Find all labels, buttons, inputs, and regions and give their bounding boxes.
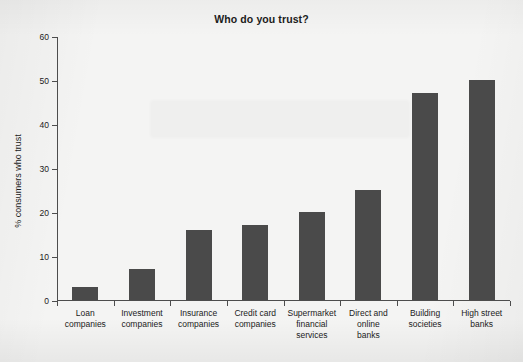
x-category-label-line: societies (394, 319, 456, 330)
bar (186, 230, 212, 300)
x-category-label-line: Investment (111, 308, 173, 319)
y-tick-mark (52, 257, 57, 258)
x-category-label-line: banks (451, 319, 513, 330)
x-category-label-line: Loan (54, 308, 116, 319)
x-tick-mark (510, 301, 511, 306)
x-category-label-line: companies (168, 319, 230, 330)
x-tick-mark (340, 301, 341, 306)
x-category-label: High streetbanks (451, 308, 513, 330)
y-axis-title: % consumers who trust (13, 134, 23, 228)
y-tick-mark (52, 213, 57, 214)
x-tick-mark (397, 301, 398, 306)
x-category-label-line: Insurance (168, 308, 230, 319)
x-category-label-line: Direct and (337, 308, 399, 319)
bar (129, 269, 155, 300)
x-category-label-line: Building (394, 308, 456, 319)
y-tick-mark (52, 169, 57, 170)
y-axis-line (57, 37, 58, 301)
x-category-label: Credit cardcompanies (224, 308, 286, 330)
x-category-label-line: Credit card (224, 308, 286, 319)
plot-area: 0102030405060 (57, 37, 510, 301)
bar-chart-figure: Who do you trust? % consumers who trust … (0, 0, 523, 362)
y-tick-label: 30 (40, 164, 49, 174)
x-category-label: Loancompanies (54, 308, 116, 330)
bar (355, 190, 381, 300)
x-category-label-line: companies (54, 319, 116, 330)
y-tick-mark (52, 37, 57, 38)
y-tick-mark (52, 81, 57, 82)
x-category-label-line: services (281, 330, 343, 341)
x-category-label: Buildingsocieties (394, 308, 456, 330)
bar (72, 287, 98, 300)
bar (299, 212, 325, 300)
x-category-label-line: financial (281, 319, 343, 330)
x-tick-mark (284, 301, 285, 306)
y-tick-label: 40 (40, 120, 49, 130)
y-tick-label: 50 (40, 76, 49, 86)
x-category-label: Supermarketfinancialservices (281, 308, 343, 342)
x-category-label: Insurancecompanies (168, 308, 230, 330)
bar (469, 80, 495, 300)
x-category-label-line: online (337, 319, 399, 330)
x-tick-mark (453, 301, 454, 306)
x-category-label-line: banks (337, 330, 399, 341)
x-category-label-line: companies (224, 319, 286, 330)
bar (242, 225, 268, 300)
x-tick-mark (227, 301, 228, 306)
x-category-label: Investmentcompanies (111, 308, 173, 330)
y-tick-mark (52, 125, 57, 126)
bar (412, 93, 438, 300)
x-category-label-line: High street (451, 308, 513, 319)
y-tick-label: 60 (40, 32, 49, 42)
y-tick-label: 10 (40, 252, 49, 262)
x-category-label-line: companies (111, 319, 173, 330)
x-category-label: Direct andonlinebanks (337, 308, 399, 342)
x-tick-mark (170, 301, 171, 306)
y-tick-label: 20 (40, 208, 49, 218)
x-category-label-line: Supermarket (281, 308, 343, 319)
chart-title: Who do you trust? (0, 13, 523, 25)
y-tick-label: 0 (44, 296, 49, 306)
x-tick-mark (57, 301, 58, 306)
x-tick-mark (114, 301, 115, 306)
